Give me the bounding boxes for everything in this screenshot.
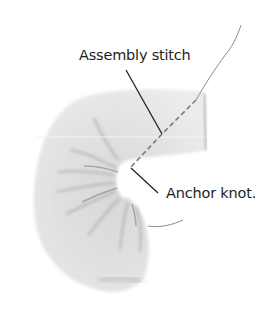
anchor-knot-label: Anchor knot. (166, 186, 256, 201)
thread-tail-top (196, 25, 241, 100)
diagram-stage: Assembly stitch Anchor knot. (0, 0, 272, 329)
thread-tail-bottom (148, 220, 183, 227)
assembly-stitch-label: Assembly stitch (79, 48, 191, 63)
anchor-knot-leader (131, 168, 158, 193)
